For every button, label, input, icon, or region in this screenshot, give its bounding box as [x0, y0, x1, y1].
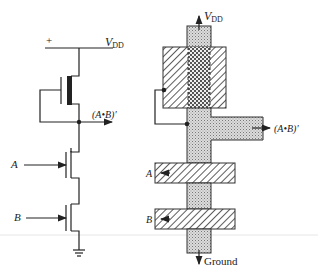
- input-a-label: A: [10, 158, 18, 170]
- supply-plus-label: +: [46, 34, 52, 46]
- depletion-implant: [188, 47, 210, 108]
- layout: [155, 16, 270, 264]
- ground-diffusion: [187, 229, 211, 253]
- output-diffusion: [187, 108, 263, 163]
- layout-vdd-label: VDD: [204, 9, 223, 24]
- load-source-wire: [71, 104, 79, 122]
- series-wire: [71, 178, 79, 204]
- nand-gate-diagram: + VDD (A•B)′ A B VDD: [0, 0, 318, 280]
- input-b-label: B: [14, 211, 21, 223]
- schematic: [24, 48, 113, 256]
- feedback-contact-bottom: [185, 122, 190, 127]
- layout-input-b-label: B: [146, 214, 152, 225]
- feedback-contact-top: [162, 88, 167, 93]
- load-wire: [71, 48, 79, 76]
- vdd-label: VDD: [105, 35, 124, 50]
- node-to-a-wire: [71, 122, 79, 152]
- gate-feedback-wire: [40, 90, 79, 122]
- depletion-channel: [67, 76, 72, 105]
- ground-icon: [73, 250, 85, 256]
- layout-ground-label: Ground: [204, 255, 238, 267]
- layout-output-label: (A•B)′: [274, 123, 299, 135]
- output-label: (A•B)′: [92, 109, 117, 121]
- ground-wire: [71, 231, 79, 250]
- mid-diffusion: [187, 183, 211, 209]
- layout-input-a-label: A: [145, 168, 153, 179]
